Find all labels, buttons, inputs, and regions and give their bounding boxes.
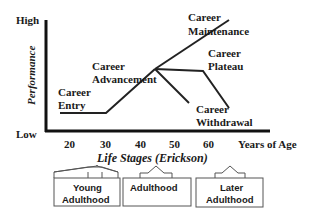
x-tick-40: 40	[135, 138, 147, 150]
stage-later-adulthood: Later Adulthood	[196, 166, 263, 207]
adulthood-label: Adulthood	[130, 182, 178, 193]
stage-adulthood: Adulthood	[123, 166, 191, 206]
y-axis-title: Performance	[25, 46, 37, 105]
career-plateau-label-1: Career	[208, 47, 241, 59]
adulthood-arrow-icon	[140, 166, 172, 178]
x-tick-30: 30	[100, 138, 112, 150]
career-advancement-label-2: Advancement	[92, 73, 157, 85]
x-tick-50: 50	[169, 138, 181, 150]
y-low-label: Low	[16, 128, 37, 140]
career-withdrawal-label-1: Career	[196, 103, 229, 115]
later-adulthood-label-2: Adulthood	[206, 194, 254, 205]
x-axis-title: Life Stages (Erickson)	[96, 151, 208, 165]
career-maintenance-label-1: Career	[188, 11, 221, 23]
career-plateau-label-2: Plateau	[208, 60, 243, 72]
stage-young-adulthood: Young Adulthood	[54, 165, 120, 206]
later-adulthood-arrow-icon	[215, 166, 245, 178]
young-adulthood-label-2: Adulthood	[62, 194, 110, 205]
career-entry-label-1: Career	[58, 86, 91, 98]
career-stages-diagram: High Low Performance 20 30 40 50 60 Year…	[0, 0, 318, 214]
young-adulthood-label-1: Young	[73, 182, 102, 193]
x-tick-60: 60	[203, 138, 215, 150]
career-advancement-label-1: Career	[92, 60, 125, 72]
later-adulthood-label-1: Later	[220, 182, 244, 193]
career-withdrawal-line	[155, 69, 189, 103]
x-unit-label: Years of Age	[238, 138, 297, 150]
x-tick-20: 20	[64, 138, 76, 150]
career-maintenance-label-2: Maintenance	[188, 25, 249, 37]
y-high-label: High	[16, 14, 39, 26]
career-withdrawal-label-2: Withdrawal	[196, 116, 253, 128]
career-entry-label-2: Entry	[58, 99, 86, 111]
